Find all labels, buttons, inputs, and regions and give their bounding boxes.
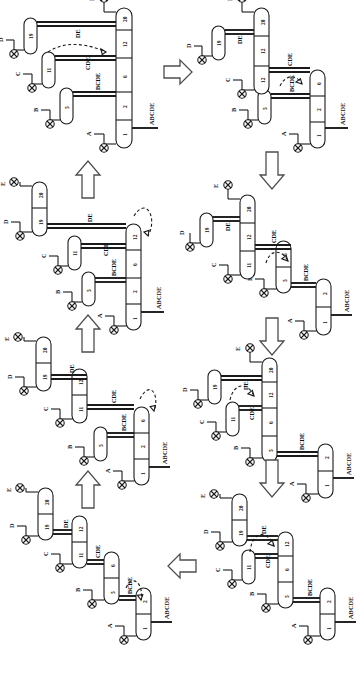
product-label-D: D — [2, 219, 9, 224]
product-label-A: A — [85, 131, 92, 136]
tray-number-side: 19 — [204, 227, 210, 233]
tray-number-side: 5 — [64, 106, 70, 109]
dashed-link — [48, 44, 106, 52]
tray-number: 20 — [122, 16, 128, 22]
tray-number-side: 11 — [78, 407, 84, 412]
panel-1-fully-thermally-coupled: 1 2 6 12 20 ABCDE A E 5 BCDE B — [0, 0, 158, 152]
stream-label-CDE: CDE — [84, 57, 91, 70]
product-label-E: E — [234, 347, 241, 351]
stream-label-DE: DE — [62, 519, 69, 528]
tray-number-side: 19 — [44, 524, 50, 530]
tray-number: 12 — [260, 48, 266, 54]
tray-number: 12 — [78, 526, 84, 532]
tray-number: 12 — [260, 77, 266, 83]
product-label-C: C — [210, 262, 217, 267]
arrow-left-up-2 — [76, 315, 100, 352]
tray-number: 2 — [316, 108, 322, 111]
tray-number: 20 — [260, 19, 266, 25]
tray-number: 1 — [132, 317, 138, 320]
arrow-top-right — [164, 60, 192, 84]
arrow-right-down-1 — [260, 152, 284, 189]
panel-5-four-column-train: 1 2 ABCDE A 5 6 12 BCDE B 11 CDE — [199, 490, 356, 644]
tray-number: 12 — [268, 392, 274, 398]
product-label-A: A — [104, 468, 111, 473]
stream-label-DE: DE — [224, 222, 231, 231]
product-label-E: E — [0, 182, 6, 186]
tray-number-side: 5 — [110, 591, 116, 594]
tray-number-side: 11 — [46, 68, 52, 73]
arrow-left-up-1 — [76, 161, 100, 198]
product-label-A: A — [280, 131, 287, 136]
tray-number-side: 11 — [230, 417, 236, 422]
tray-number-side: 5 — [284, 595, 290, 598]
distillation-sequence-figure: 1 2 6 12 20 ABCDE A E 5 BCDE B — [0, 0, 360, 677]
panel-2-split-main-column: 1 2 6 ABCDE A 5 BCDE B 12 12 20 — [185, 0, 348, 152]
product-label-D: D — [6, 374, 13, 379]
stream-label-CDE: CDE — [94, 545, 101, 558]
product-label-A: A — [106, 623, 113, 628]
tray-number: 1 — [316, 134, 322, 137]
tray-number-side: 5 — [262, 107, 268, 110]
tray-number: 1 — [142, 627, 148, 630]
tray-number: 12 — [284, 541, 290, 547]
product-label-C: C — [42, 406, 49, 411]
tray-number: 2 — [122, 105, 128, 108]
arrow-right-down-3 — [260, 460, 284, 497]
tray-number-side: 19 — [216, 40, 222, 46]
tray-number: 12 — [132, 234, 138, 240]
feed-label: ABCDE — [339, 103, 346, 125]
product-label-B: B — [232, 445, 239, 450]
product-label-D: D — [0, 37, 4, 42]
tray-number-side: 11 — [78, 553, 84, 558]
product-label-E: E — [88, 0, 95, 1]
tray-number: 1 — [122, 133, 128, 136]
product-label-C: C — [224, 77, 231, 82]
arrow-right-down-2 — [260, 318, 284, 355]
tray-number: 20 — [268, 367, 274, 373]
tray-number: 6 — [140, 419, 146, 422]
tray-number: 6 — [316, 82, 322, 85]
tray-number: 2 — [326, 600, 332, 603]
tray-number-side: 11 — [72, 251, 78, 256]
stream-label-BCDE: BCDE — [94, 73, 101, 90]
tray-number: 20 — [38, 192, 44, 198]
tray-number-side: 19 — [238, 530, 244, 536]
stream-label-BCDE: BCDE — [110, 259, 117, 276]
tray-number: 2 — [324, 456, 330, 459]
panel-8-sloppy-split: 1 2 6 12 ABCDE A 5 BCDE B 11 CDE — [0, 178, 164, 334]
product-label-D: D — [202, 529, 209, 534]
stream-label-CDE: CDE — [286, 53, 293, 66]
product-label-D: D — [178, 230, 185, 235]
stream-label-CDE: CDE — [102, 243, 109, 256]
tray-number: 6 — [268, 421, 274, 424]
feed-label: ABCDE — [343, 290, 350, 312]
tray-number: 1 — [324, 484, 330, 487]
stream-label-CDE: CDE — [264, 555, 271, 568]
product-label-B: B — [74, 587, 81, 592]
stream-label-BCDE: BCDE — [120, 414, 127, 431]
tray-number: 20 — [238, 505, 244, 511]
tray-number: 6 — [132, 263, 138, 266]
product-label-E: E — [212, 184, 219, 188]
product-label-B: B — [66, 444, 73, 449]
stream-label-CDE: CDE — [248, 407, 255, 420]
product-label-A: A — [96, 313, 103, 318]
product-label-A: A — [290, 623, 297, 628]
product-label-C: C — [40, 253, 47, 258]
stream-label-DE: DE — [242, 381, 249, 390]
product-label-B: B — [230, 107, 237, 112]
dashed-link — [250, 535, 274, 552]
tray-number-side: 5 — [282, 279, 288, 282]
tray-number: 20 — [246, 206, 252, 212]
panel-7-indirect-sequence: 1 2 6 ABCDE A 5 BCDE B 11 12 CDE — [3, 333, 170, 489]
figure-page: 1 2 6 12 20 ABCDE A E 5 BCDE B — [0, 0, 360, 677]
tray-number: 12 — [246, 234, 252, 240]
product-label-C: C — [198, 419, 205, 424]
product-label-B: B — [54, 289, 61, 294]
tray-number-side: 19 — [42, 374, 48, 380]
tray-number: 2 — [322, 292, 328, 295]
feed-label: ABCDE — [161, 442, 168, 464]
feed-label: ABCDE — [347, 597, 354, 619]
tray-number: 2 — [140, 445, 146, 448]
product-label-E: E — [199, 494, 206, 498]
